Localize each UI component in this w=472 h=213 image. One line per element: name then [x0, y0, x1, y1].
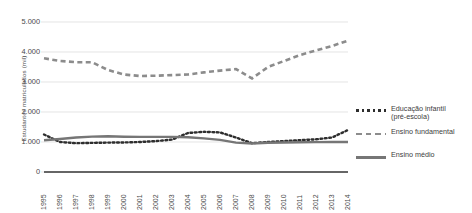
legend-item-ensino-fundamental: Ensino fundamental: [356, 127, 472, 143]
legend-label-line1: Ensino fundamental: [391, 128, 455, 136]
legend-label-line1: Ensino médio: [391, 151, 435, 159]
legend-label-line2: (pré-escola): [391, 113, 446, 121]
legend-label-ensino-fundamental: Ensino fundamental: [391, 127, 455, 136]
legend-label-ensino-medio: Ensino médio: [391, 150, 435, 159]
chart-container: Estudantes matriculados (mil) 01.0002.00…: [0, 0, 472, 213]
legend-item-ensino-medio: Ensino médio: [356, 150, 472, 166]
legend-swatch-solid-icon: [356, 150, 386, 162]
legend-label-educacao-infantil: Educação infantil (pré-escola): [391, 104, 446, 122]
legend-item-educacao-infantil: Educação infantil (pré-escola): [356, 104, 472, 120]
legend-swatch-dashed-icon: [356, 127, 386, 139]
chart-legend: Educação infantil (pré-escola) Ensino fu…: [356, 104, 472, 173]
legend-swatch-dotted-icon: [356, 104, 386, 116]
series-line: [44, 41, 348, 79]
